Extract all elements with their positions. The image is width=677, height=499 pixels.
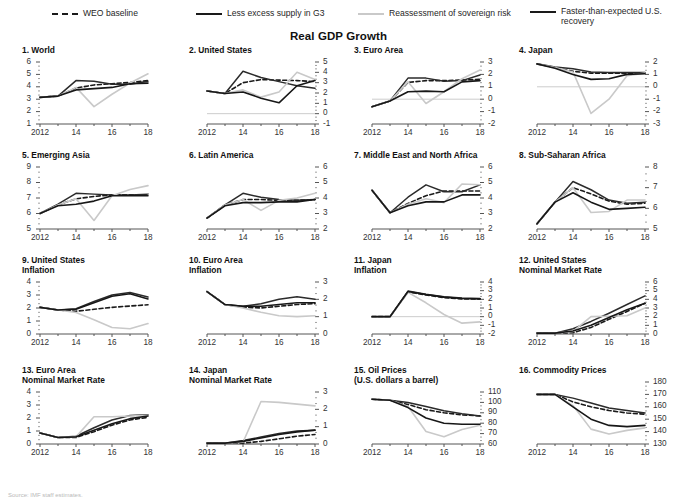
chart-title: Real GDP Growth [0,30,677,42]
panel-7: 7. Middle East and North Africa234562012… [332,151,500,256]
legend-label: Faster-than-expected U.S. recovery [561,4,662,26]
series-line [372,190,480,212]
y-tick-label: 2 [653,311,675,320]
y-tick-label: 1 [0,426,31,435]
x-tick-label: 18 [466,448,494,457]
x-tick-label: 2012 [358,448,386,457]
series-line [372,292,480,317]
source-note: Source: IMF staff estimates. [8,492,83,498]
y-tick-label: 140 [653,426,675,435]
x-tick-label: 16 [265,448,293,457]
x-tick-label: 14 [394,128,422,137]
x-tick-label: 14 [559,128,587,137]
y-tick-label: 2 [0,413,31,422]
y-tick-label: 4 [0,81,31,90]
series-line [537,308,645,333]
series-line [207,71,315,93]
x-tick-label: 16 [98,233,126,242]
x-tick-label: 16 [265,128,293,137]
legend-swatch-icon [358,13,384,15]
legend-item-2: Less excess supply in G3 [196,6,346,18]
x-tick-label: 14 [62,128,90,137]
y-tick-label: -1 [653,94,675,103]
panel-11: 11. Japan Inflation-2-1012342012141618 [332,256,500,361]
y-tick-label: 8 [0,177,31,186]
x-tick-label: 16 [430,448,458,457]
x-tick-label: 2012 [26,338,54,347]
x-tick-label: 18 [134,338,162,347]
x-tick-label: 14 [229,448,257,457]
x-tick-label: 16 [595,128,623,137]
series-line [40,307,148,328]
x-tick-label: 14 [62,233,90,242]
panel-4: 4. Japan-3-2-10122012141618 [497,46,665,151]
panel-5: 5. Emerging Asia567892012141618 [0,151,168,256]
x-tick-label: 2012 [193,233,221,242]
series-line [207,81,315,103]
y-tick-label: 6 [653,203,675,212]
x-tick-label: 18 [466,128,494,137]
series-line [372,292,480,323]
x-tick-label: 16 [98,338,126,347]
y-tick-label: 0 [653,329,675,338]
series-line [372,399,480,416]
y-tick-label: 6 [0,208,31,217]
panel-15: 15. Oil Prices (U.S. dollars a barrel)60… [332,366,500,471]
x-tick-label: 2012 [523,338,551,347]
y-tick-label: 1 [0,316,31,325]
x-tick-label: 14 [229,233,257,242]
panel-13: 13. Euro Area Nominal Market Rate0123420… [0,366,168,471]
y-tick-label: 150 [653,414,675,423]
y-tick-label: 7 [653,182,675,191]
series-line [40,74,148,107]
panel-9: 9. United States Inflation01234201214161… [0,256,168,361]
x-tick-label: 16 [430,233,458,242]
series-line [372,184,480,213]
x-tick-label: 2012 [26,128,54,137]
y-tick-label: 1 [653,69,675,78]
x-tick-label: 2012 [193,448,221,457]
x-tick-label: 2012 [523,448,551,457]
x-tick-label: 18 [631,233,659,242]
y-tick-label: 7 [0,193,31,202]
y-tick-label: 6 [0,57,31,66]
panel-6: 6. Latin America234562012141618 [167,151,335,256]
y-tick-label: 2 [0,106,31,115]
x-tick-label: 16 [595,338,623,347]
x-tick-label: 18 [466,233,494,242]
y-tick-label: 6 [653,277,675,286]
y-tick-label: 4 [0,387,31,396]
panel-2: 2. United States-10123452012141618 [167,46,335,151]
series-line [40,186,148,221]
x-tick-label: 14 [559,233,587,242]
series-line [207,434,315,443]
x-tick-label: 16 [430,128,458,137]
x-tick-label: 16 [265,233,293,242]
x-tick-label: 16 [98,128,126,137]
x-tick-label: 16 [98,448,126,457]
y-tick-label: 5 [0,224,31,233]
x-tick-label: 2012 [358,233,386,242]
series-line [537,193,645,224]
legend-item-3: Reassessment of sovereign risk [358,6,523,18]
y-tick-label: 170 [653,389,675,398]
y-tick-label: 3 [0,400,31,409]
legend-swatch-icon [530,11,556,13]
panel-12: 12. United States Nominal Market Rate012… [497,256,665,361]
x-tick-label: 2012 [26,233,54,242]
x-tick-label: 14 [229,128,257,137]
y-tick-label: 5 [0,69,31,78]
series-line [537,188,645,224]
y-tick-label: 4 [653,294,675,303]
panel-16: 16. Commodity Prices13014015016017018020… [497,366,665,471]
y-tick-label: 8 [653,162,675,171]
x-tick-label: 16 [430,338,458,347]
x-tick-label: 18 [134,233,162,242]
y-tick-label: 2 [653,57,675,66]
x-tick-label: 14 [229,338,257,347]
x-tick-label: 14 [394,448,422,457]
series-line [537,394,645,434]
legend-swatch-icon [52,13,78,15]
y-tick-label: 9 [0,162,31,171]
y-tick-label: 1 [0,119,31,128]
